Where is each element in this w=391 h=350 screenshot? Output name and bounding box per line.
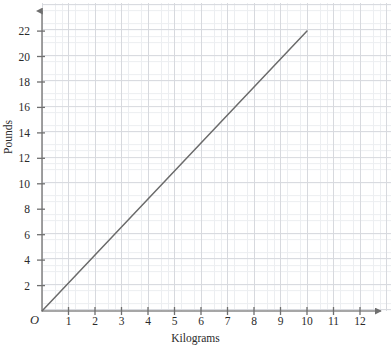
origin-label: O xyxy=(30,313,39,328)
x-tick-label: 1 xyxy=(58,315,80,327)
x-tick-label: 3 xyxy=(111,315,133,327)
x-axis-title: Kilograms xyxy=(0,332,391,344)
x-tick-label: 6 xyxy=(190,315,212,327)
x-tick-label: 12 xyxy=(349,315,371,327)
x-tick-label: 7 xyxy=(217,315,239,327)
y-axis-title: Pounds xyxy=(2,107,14,167)
x-tick-label: 5 xyxy=(164,315,186,327)
x-tick-label: 9 xyxy=(270,315,292,327)
y-tick-label: 8 xyxy=(8,203,30,215)
y-tick-label: 4 xyxy=(8,254,30,266)
x-tick-label: 4 xyxy=(137,315,159,327)
y-tick-label: 18 xyxy=(8,76,30,88)
y-tick-label: 6 xyxy=(8,229,30,241)
y-tick-label: 20 xyxy=(8,51,30,63)
y-tick-label: 2 xyxy=(8,280,30,292)
plot-grid xyxy=(42,3,391,311)
x-tick-label: 10 xyxy=(296,315,318,327)
x-tick-label: 8 xyxy=(243,315,265,327)
x-tick-label: 2 xyxy=(84,315,106,327)
x-tick-label: 11 xyxy=(323,315,345,327)
y-tick-label: 10 xyxy=(8,178,30,190)
chart-figure: 2 4 6 8 10 12 14 16 18 20 22 1 2 3 4 5 6… xyxy=(0,0,391,350)
y-tick-label: 22 xyxy=(8,25,30,37)
